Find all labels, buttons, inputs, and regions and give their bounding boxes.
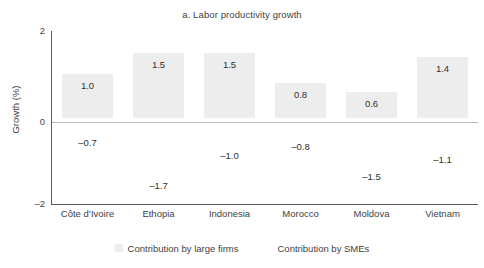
- x-axis-label: Indonesia: [190, 208, 270, 219]
- bar-large-firms[interactable]: 0.6: [346, 92, 397, 118]
- bar-value-label-smes: –1.7: [133, 181, 184, 191]
- bar-value-label-large-firms: 1.0: [62, 81, 113, 91]
- x-axis-label: Côte d’Ivoire: [48, 208, 128, 219]
- bar-large-firms[interactable]: 1.5: [204, 53, 255, 118]
- y-tick-label-neg2: –2: [23, 199, 45, 209]
- x-axis-label: Moldova: [332, 208, 412, 219]
- x-axis-label: Morocco: [261, 208, 341, 219]
- zero-baseline: [52, 122, 478, 123]
- y-axis-title: Growth (%): [10, 70, 21, 150]
- bar-value-label-large-firms: 0.8: [275, 90, 326, 100]
- bar-value-label-large-firms: 0.6: [346, 99, 397, 109]
- bar-group: 0.6–1.5: [336, 31, 407, 204]
- bar-value-label-smes: –0.7: [62, 138, 113, 148]
- bar-group: 1.4–1.1: [407, 31, 478, 204]
- bar-value-label-large-firms: 1.4: [417, 64, 468, 74]
- chart-figure: a. Labor productivity growth 2 0 –2 Grow…: [0, 0, 484, 268]
- y-tick-label-2: 2: [23, 26, 45, 36]
- x-axis-label: Vietnam: [403, 208, 483, 219]
- bar-group: 1.0–0.7: [52, 31, 123, 204]
- legend-swatch-icon-large-firms: [115, 244, 123, 252]
- chart-title: a. Labor productivity growth: [0, 9, 484, 20]
- y-axis-ticks: 2 0 –2: [23, 0, 45, 268]
- plot-area: 1.0–0.71.5–1.71.5–1.00.8–0.80.6–1.51.4–1…: [52, 31, 478, 204]
- legend-item-large-firms: Contribution by large firms: [115, 243, 239, 254]
- legend-label-smes: Contribution by SMEs: [278, 243, 370, 254]
- bar-group: 1.5–1.7: [123, 31, 194, 204]
- bar-large-firms[interactable]: 1.4: [417, 57, 468, 118]
- bar-value-label-smes: –0.8: [275, 142, 326, 152]
- bar-large-firms[interactable]: 1.5: [133, 53, 184, 118]
- bar-group: 1.5–1.0: [194, 31, 265, 204]
- bar-group: 0.8–0.8: [265, 31, 336, 204]
- bar-large-firms[interactable]: 0.8: [275, 83, 326, 118]
- bar-value-label-large-firms: 1.5: [204, 60, 255, 70]
- bar-value-label-smes: –1.1: [417, 155, 468, 165]
- bar-value-label-smes: –1.0: [204, 151, 255, 161]
- x-axis-label: Ethopia: [119, 208, 199, 219]
- bar-large-firms[interactable]: 1.0: [62, 74, 113, 117]
- bar-value-label-large-firms: 1.5: [133, 60, 184, 70]
- x-axis-labels: Côte d’IvoireEthopiaIndonesiaMoroccoMold…: [52, 208, 478, 224]
- legend-label-large-firms: Contribution by large firms: [128, 243, 239, 254]
- legend-swatch-icon-smes: [265, 244, 273, 252]
- legend-item-smes: Contribution by SMEs: [265, 243, 370, 254]
- chart-legend: Contribution by large firms Contribution…: [0, 241, 484, 255]
- bar-value-label-smes: –1.5: [346, 172, 397, 182]
- y-tick-label-0: 0: [23, 117, 45, 127]
- x-axis-bottom-line: [51, 204, 478, 205]
